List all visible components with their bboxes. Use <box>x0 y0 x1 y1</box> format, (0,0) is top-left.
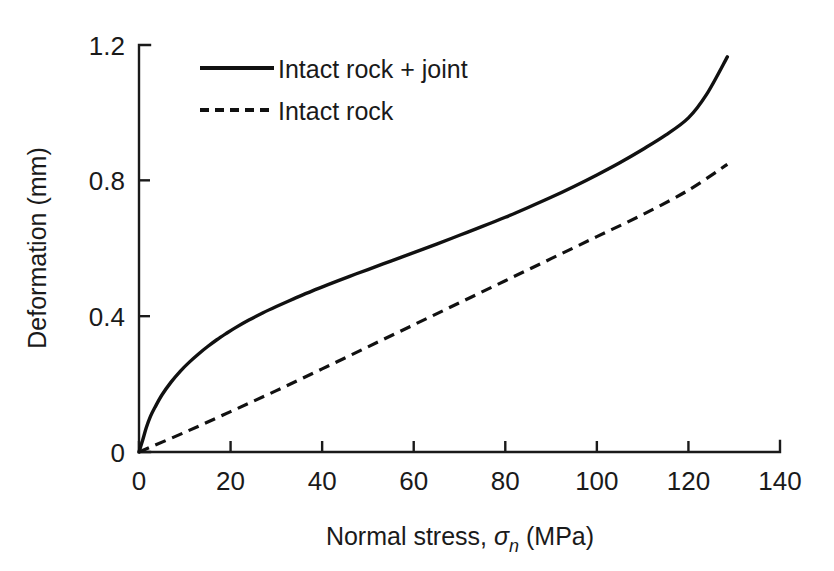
x-tick-label-40: 40 <box>308 466 337 496</box>
y-axis-ticks <box>139 180 150 316</box>
x-axis-title-prefix: Normal stress, <box>326 522 494 550</box>
x-axis-title-sigma: σ <box>494 522 510 550</box>
x-tick-labels: 0 20 40 60 80 100 120 140 <box>132 466 802 496</box>
x-tick-label-100: 100 <box>575 466 618 496</box>
x-tick-label-0: 0 <box>132 466 146 496</box>
x-tick-label-120: 120 <box>667 466 710 496</box>
x-axis-title-suffix: (MPa) <box>519 522 594 550</box>
legend-label-intact-rock: Intact rock <box>278 97 394 125</box>
x-tick-label-140: 140 <box>758 466 801 496</box>
y-axis-spine <box>139 45 150 452</box>
deformation-vs-normal-stress-chart: 1.2 0.8 0.4 0 0 20 40 60 80 100 120 140 … <box>0 0 834 571</box>
legend-label-intact-rock-plus-joint: Intact rock + joint <box>278 55 468 83</box>
series-intact-rock-plus-joint <box>139 57 727 452</box>
x-tick-label-80: 80 <box>491 466 520 496</box>
x-axis-title: Normal stress, σn (MPa) <box>326 522 594 556</box>
x-tick-label-60: 60 <box>399 466 428 496</box>
series-intact-rock <box>139 164 727 452</box>
x-axis-title-subscript: n <box>509 536 519 556</box>
data-series-group <box>139 57 727 452</box>
chart-legend: Intact rock + joint Intact rock <box>200 55 468 125</box>
chart-figure: 1.2 0.8 0.4 0 0 20 40 60 80 100 120 140 … <box>0 0 834 571</box>
y-tick-label-1.2: 1.2 <box>89 31 125 61</box>
y-tick-label-0.8: 0.8 <box>89 166 125 196</box>
y-axis-title: Deformation (mm) <box>23 147 51 348</box>
y-tick-label-0: 0 <box>111 438 125 468</box>
y-tick-label-0.4: 0.4 <box>89 302 125 332</box>
x-axis-spine <box>139 441 780 452</box>
x-axis-ticks <box>139 441 688 452</box>
y-tick-labels: 1.2 0.8 0.4 0 <box>89 31 125 468</box>
x-tick-label-20: 20 <box>216 466 245 496</box>
